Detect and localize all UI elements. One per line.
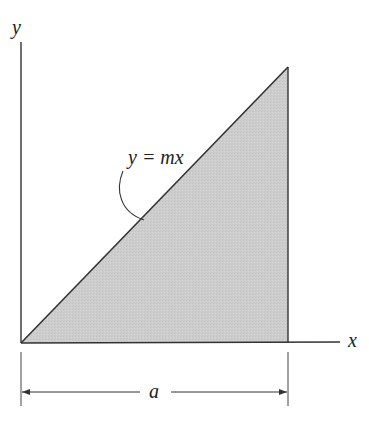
- dimension-label-a: a: [149, 380, 159, 402]
- curve-leader-line: [119, 171, 144, 220]
- diagram-canvas: y x y = mx a: [0, 0, 369, 435]
- x-axis-label: x: [347, 329, 357, 351]
- y-axis-label: y: [10, 16, 21, 39]
- curve-label: y = mx: [126, 146, 184, 169]
